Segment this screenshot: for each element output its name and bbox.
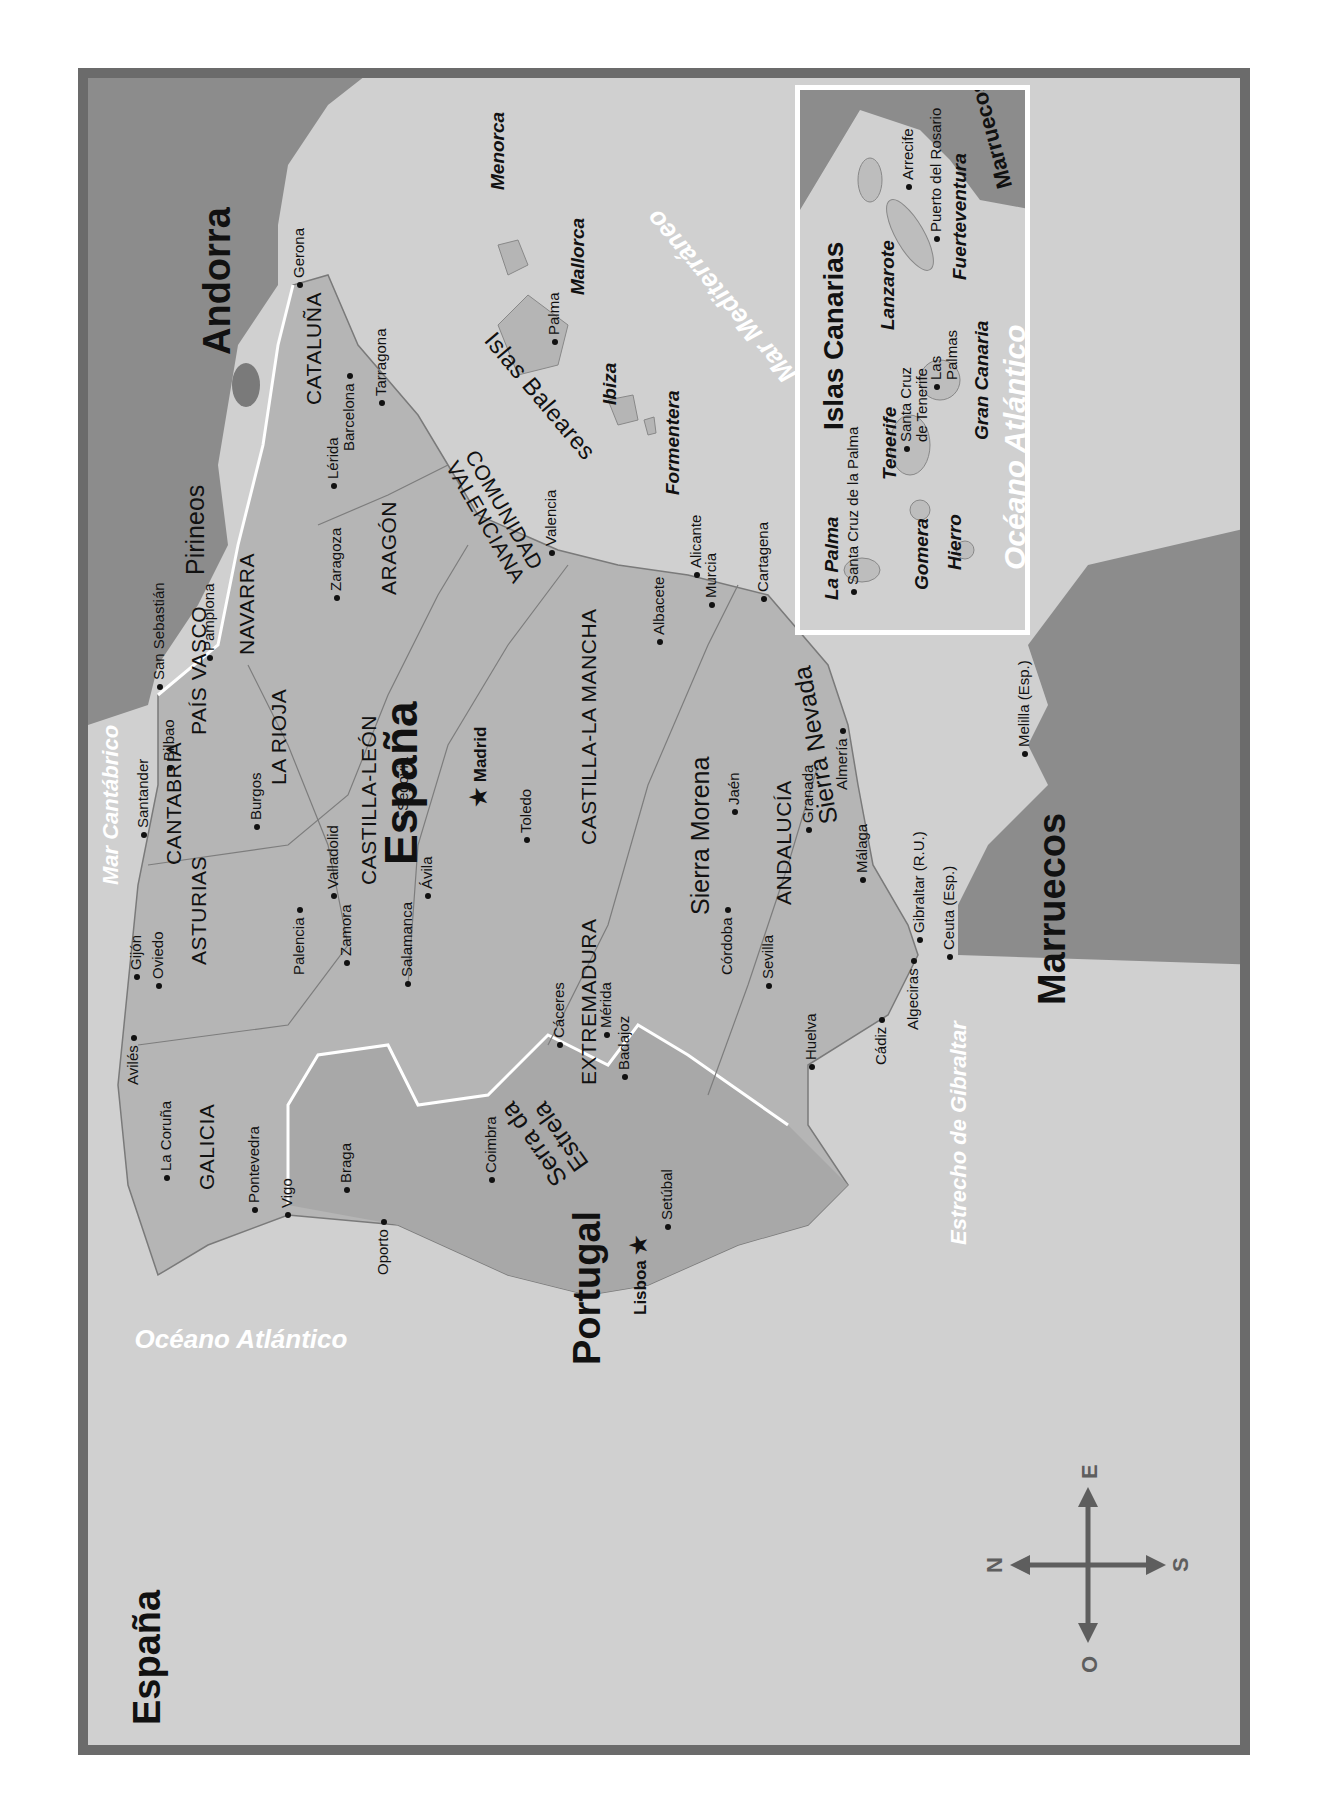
region-asturias: ASTURIAS [188,856,209,965]
city-santander: Santander [135,759,150,838]
island-menorca: Menorca [488,112,507,190]
island-lanzarote: Lanzarote [878,240,897,330]
city-bilbao: Bilbao [161,719,176,771]
city-santa-cruz-tenerife: Santa Cruzde Tenerife [898,367,930,452]
city-pamplona: Pamplona [201,583,216,661]
city-dot-icon [860,877,866,883]
city-sevilla: Sevilla [760,935,775,989]
city-granada: Granada [800,765,815,833]
city-dot-icon [141,832,147,838]
city-dot-icon [134,974,140,980]
region-castilla-la-mancha: CASTILLA-LA MANCHA [578,608,599,845]
city-aviles: Avilés [125,1031,140,1085]
city-melilla: Melilla (Esp.) [1016,660,1031,757]
city-dot-icon [557,1042,563,1048]
city-dot-icon [297,907,303,913]
city-dot-icon [489,1177,495,1183]
city-dot-icon [405,981,411,987]
city-dot-icon [911,958,917,964]
city-dot-icon [379,400,385,406]
label-oceano-atlantico: Océano Atlántico [135,1326,348,1352]
region-galicia: GALICIA [196,1104,217,1190]
city-dot-icon [401,815,407,821]
city-oviedo: Oviedo [150,931,165,989]
island-ibiza: Ibiza [600,363,619,405]
capital-madrid: ★ Madrid [468,727,490,807]
city-dot-icon [725,907,731,913]
city-dot-icon [917,937,923,943]
region-extremadura: EXTREMADURA [578,918,599,1085]
region-navarra: NAVARRA [236,553,257,655]
city-valladolid: Valladolid [325,825,340,899]
city-dot-icon [840,728,846,734]
city-caceres: Cáceres [551,982,566,1048]
city-dot-icon [766,983,772,989]
city-gijon: Gijón [128,935,143,980]
island-la-palma: La Palma [822,517,841,600]
city-dot-icon [552,339,558,345]
city-dot-icon [334,595,340,601]
city-arrecife: Arrecife [900,128,915,190]
city-dot-icon [381,1219,387,1225]
city-dot-icon [947,954,953,960]
compass-rose: N S O E [988,1465,1188,1665]
city-dot-icon [604,1032,610,1038]
city-almeria: Almería [834,724,849,790]
city-huelva: Huelva [803,1013,818,1070]
city-tarragona: Tarragona [373,328,388,406]
city-dot-icon [167,765,173,771]
city-zamora: Zamora [338,904,353,966]
city-braga: Braga [338,1143,353,1193]
island-fuerteventura: Fuerteventura [950,153,969,280]
label-estrecho-gibraltar: Estrecho de Gibraltar [948,1021,970,1245]
island-gran-canaria: Gran Canaria [972,321,991,440]
city-dot-icon [164,1175,170,1181]
city-dot-icon [809,1064,815,1070]
city-dot-icon [344,1187,350,1193]
city-dot-icon [665,1224,671,1230]
island-hierro: Hierro [945,514,964,570]
city-dot-icon [906,184,912,190]
city-dot-icon [709,602,715,608]
city-dot-icon [934,236,940,242]
city-dot-icon [694,572,700,578]
city-jaen: Jaén [726,772,741,815]
label-andorra: Andorra [198,207,236,355]
city-murcia: Murcia [703,553,718,608]
city-oporto: Oporto [375,1215,390,1275]
city-pontevedra: Pontevedra [246,1126,261,1213]
city-setubal: Setúbal [659,1169,674,1230]
city-gerona: Gerona [291,228,306,288]
region-castilla-leon: CASTILLA-LEÓN [358,715,379,885]
city-merida: Mérida [598,982,613,1038]
city-dot-icon [344,960,350,966]
city-la-coruna: La Coruña [158,1101,173,1181]
city-coimbra: Coimbra [483,1116,498,1183]
city-palencia: Palencia [291,903,306,975]
label-mar-cantabrico: Mar Cantábrico [100,725,122,885]
map-frame: Islas Canarias Marruecos Océano Atlántic… [78,68,1250,1755]
city-dot-icon [879,1017,885,1023]
andorra-land [232,363,260,407]
city-zaragoza: Zaragoza [328,528,343,601]
city-dot-icon [425,893,431,899]
city-dot-icon [131,1035,137,1041]
city-burgos: Burgos [248,772,263,830]
city-dot-icon [934,384,940,390]
capital-lisboa: Lisboa ★ [628,1235,650,1315]
city-dot-icon [331,893,337,899]
city-algeciras: Algeciras [905,954,920,1030]
label-sierra-morena: Sierra Morena [688,757,713,915]
city-cadiz: Cádiz [873,1013,888,1065]
region-la-rioja: LA RIOJA [268,689,289,785]
city-dot-icon [657,639,663,645]
compass-o: O [1077,1656,1103,1673]
city-puerto-del-rosario: Puerto del Rosario [928,108,943,242]
city-las-palmas: LasPalmas [928,330,960,390]
city-segovia: Segovia [395,757,410,821]
city-badajoz: Badajoz [616,1016,631,1080]
map-rotated-container: Islas Canarias Marruecos Océano Atlántic… [78,68,1250,1755]
city-dot-icon [347,373,353,379]
city-dot-icon [761,596,767,602]
city-barcelona: Barcelona [341,369,356,451]
